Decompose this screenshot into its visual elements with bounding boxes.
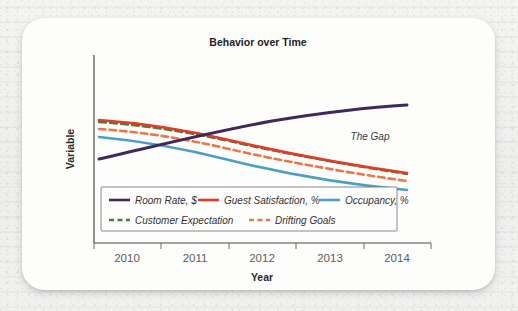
- x-axis-ticks: [94, 243, 431, 249]
- x-axis-title: Year: [251, 271, 273, 283]
- chart-title: Behavior over Time: [209, 36, 306, 48]
- chart-card: Behavior over Time 2010 2011 2012 2013 2…: [22, 18, 495, 290]
- behavior-over-time-chart: Behavior over Time 2010 2011 2012 2013 2…: [22, 18, 495, 290]
- gap-annotation: The Gap: [351, 131, 390, 142]
- legend-label-customer-expectation: Customer Expectation: [135, 215, 234, 226]
- y-axis-title: Variable: [64, 129, 76, 169]
- x-tick-label-2010: 2010: [114, 252, 140, 264]
- x-tick-label-2014: 2014: [384, 252, 410, 264]
- x-tick-label-2013: 2013: [317, 252, 343, 264]
- legend-label-guest-satisfaction: Guest Satisfaction, %: [224, 195, 320, 206]
- legend-label-room-rate: Room Rate, $: [135, 195, 197, 206]
- x-tick-label-2011: 2011: [183, 252, 208, 264]
- x-tick-label-2012: 2012: [249, 252, 275, 264]
- chart-legend: Room Rate, $ Guest Satisfaction, % Occup…: [101, 187, 409, 231]
- legend-label-occupancy: Occupancy, %: [345, 195, 409, 206]
- legend-label-drifting-goals: Drifting Goals: [275, 215, 336, 226]
